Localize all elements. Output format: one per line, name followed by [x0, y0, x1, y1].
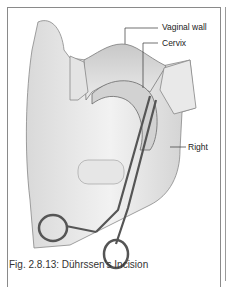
label-vaginal-wall: Vaginal wall — [162, 22, 207, 32]
figure-caption: Fig. 2.8.13: Dührssen's Incision — [9, 259, 148, 270]
label-cervix: Cervix — [162, 38, 186, 48]
label-right: Right — [188, 142, 208, 152]
